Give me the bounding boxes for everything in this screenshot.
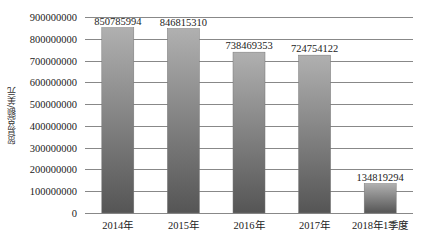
bar xyxy=(299,55,331,213)
y-tick-label: 300000000 xyxy=(30,143,77,154)
bars xyxy=(102,28,396,213)
data-label: 738469353 xyxy=(225,40,272,51)
y-tick-label: 500000000 xyxy=(30,99,77,110)
y-tick-label: 400000000 xyxy=(30,121,77,132)
x-tick-label: 2017年 xyxy=(299,219,330,231)
bar xyxy=(233,52,265,213)
y-axis-tick-labels: 0100000000200000000300000000400000000500… xyxy=(30,12,77,219)
bar xyxy=(364,184,396,213)
data-label: 850785994 xyxy=(94,16,142,27)
bar xyxy=(167,29,199,213)
figure-caption-cropped xyxy=(55,238,315,246)
x-tick-label: 2016年 xyxy=(234,219,265,231)
x-axis-tick-labels: 2014年2015年2016年2017年2018年1季度 xyxy=(102,219,409,231)
bar-chart: 0100000000200000000300000000400000000500… xyxy=(0,0,424,246)
y-tick-label: 600000000 xyxy=(30,77,77,88)
data-label: 724754122 xyxy=(291,43,338,54)
y-axis-label: 贸易总额/美元 xyxy=(4,70,18,160)
y-tick-label: 100000000 xyxy=(30,186,77,197)
data-label: 134819294 xyxy=(357,172,405,183)
x-tick-label: 2015年 xyxy=(168,219,199,231)
bar xyxy=(102,28,134,213)
y-tick-label: 800000000 xyxy=(30,34,77,45)
y-tick-label: 900000000 xyxy=(30,12,77,23)
y-tick-label: 700000000 xyxy=(30,56,77,67)
y-tick-label: 0 xyxy=(72,208,77,219)
data-label: 846815310 xyxy=(160,17,207,28)
y-tick-label: 200000000 xyxy=(30,164,77,175)
x-tick-label: 2018年1季度 xyxy=(352,219,409,231)
x-tick-label: 2014年 xyxy=(102,219,133,231)
